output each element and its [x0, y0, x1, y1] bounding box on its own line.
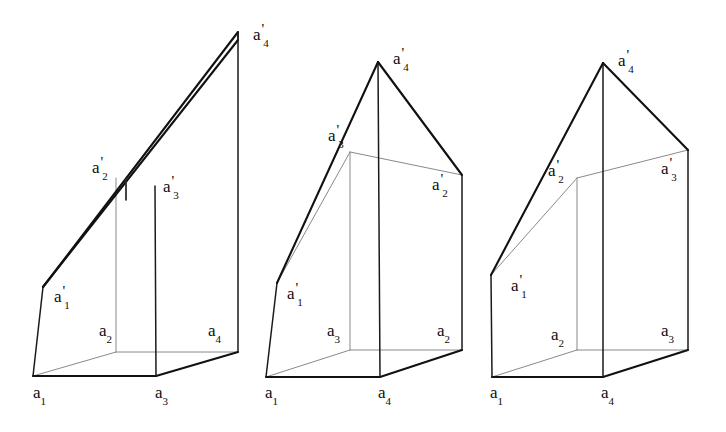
label-subscript: 2 [559, 337, 565, 349]
label-subscript: 2 [102, 170, 108, 182]
fig2-hidden-floor-diagonal [266, 350, 350, 377]
fig1-label-a3: a3 [155, 384, 168, 404]
label-prime: ' [262, 21, 265, 37]
fig3-right-bottom-edge [603, 350, 688, 377]
label-base: a [327, 321, 335, 340]
label-subscript: 4 [263, 37, 269, 49]
fig1-lower-slant-edge [43, 40, 238, 287]
label-prime: ' [441, 171, 444, 187]
fig1-label-a4: a4 [208, 322, 221, 342]
diagram-panel: a1 a3 a2 a4 a'1 a'2 a'3 a'4 a1 a4 a3 a2 … [0, 0, 726, 432]
fig2-label-a2: a2 [437, 322, 450, 342]
fig2-apex-left-edge [277, 62, 378, 283]
label-subscript: 2 [558, 173, 564, 185]
fig2-label-a2-prime: a'2 [432, 176, 448, 196]
fig2-hidden-top-back-right [350, 152, 462, 175]
label-prime: ' [63, 283, 66, 299]
fig2-left-vertical-edge [266, 283, 277, 377]
label-subscript: 3 [163, 395, 169, 407]
figure-2-geometry [266, 62, 462, 377]
fig2-label-a1-prime: a'1 [287, 285, 303, 305]
label-subscript: 3 [173, 189, 179, 201]
label-base: a [33, 383, 41, 402]
fig1-label-a4-prime: a'4 [253, 26, 269, 46]
label-prime: ' [337, 122, 340, 138]
fig3-apex-right-edge [603, 63, 688, 150]
fig2-label-a1: a1 [265, 384, 278, 404]
fig3-label-a3: a3 [661, 322, 674, 342]
fig1-right-bottom-edge [156, 352, 238, 376]
fig1-label-a1: a1 [33, 384, 46, 404]
fig1-label-a3-prime: a'3 [163, 178, 179, 198]
label-base: a [54, 287, 62, 306]
fig2-label-a3-prime: a'3 [328, 127, 344, 147]
label-subscript: 2 [107, 333, 113, 345]
label-base: a [393, 49, 401, 68]
label-base: a [287, 284, 295, 303]
label-base: a [511, 276, 519, 295]
fig3-label-a2-prime: a'2 [548, 162, 564, 182]
fig3-label-a4-prime: a'4 [618, 52, 634, 72]
label-subscript: 2 [442, 187, 448, 199]
fig2-mid-vertical-edge [378, 62, 380, 377]
label-subscript: 1 [273, 395, 279, 407]
label-prime: ' [101, 154, 104, 170]
label-subscript: 4 [216, 333, 222, 345]
label-base: a [253, 25, 261, 44]
fig1-label-a2: a2 [99, 322, 112, 342]
label-subscript: 1 [64, 299, 70, 311]
label-subscript: 4 [609, 395, 615, 407]
label-base: a [208, 321, 216, 340]
label-base: a [328, 126, 336, 145]
fig3-apex-left-edge [491, 63, 603, 275]
label-prime: ' [557, 157, 560, 173]
fig2-label-a4-prime: a'4 [393, 50, 409, 70]
fig1-left-vertical-edge [33, 287, 43, 376]
label-prime: ' [520, 272, 523, 288]
fig3-label-a4: a4 [601, 384, 614, 404]
fig2-label-a4: a4 [378, 384, 391, 404]
figure-3-geometry [491, 63, 688, 377]
label-base: a [265, 383, 273, 402]
label-prime: ' [670, 155, 673, 171]
label-subscript: 3 [671, 171, 677, 183]
label-subscript: 2 [445, 333, 451, 345]
label-base: a [99, 321, 107, 340]
label-base: a [432, 175, 440, 194]
label-subscript: 1 [521, 288, 527, 300]
label-base: a [601, 383, 609, 402]
label-subscript: 1 [498, 395, 504, 407]
fig1-label-a2-prime: a'2 [92, 159, 108, 179]
label-base: a [548, 161, 556, 180]
label-subscript: 1 [41, 395, 47, 407]
label-base: a [618, 51, 626, 70]
fig3-left-vertical-edge [491, 275, 492, 377]
label-prime: ' [627, 47, 630, 63]
label-subscript: 3 [335, 333, 341, 345]
label-base: a [92, 158, 100, 177]
fig1-label-a1-prime: a'1 [54, 288, 70, 308]
fig1-hidden-floor-diagonal [33, 352, 116, 376]
label-subscript: 1 [297, 296, 303, 308]
label-base: a [661, 321, 669, 340]
label-subscript: 4 [403, 61, 409, 73]
label-base: a [437, 321, 445, 340]
fig2-label-a3: a3 [327, 322, 340, 342]
label-base: a [163, 177, 171, 196]
fig3-label-a3-prime: a'3 [661, 160, 677, 180]
label-base: a [661, 159, 669, 178]
fig2-hidden-top-back-left [277, 152, 350, 283]
label-prime: ' [172, 173, 175, 189]
fig2-apex-right-edge [378, 62, 462, 175]
fig3-hidden-floor-diagonal [492, 350, 577, 377]
label-prime: ' [402, 45, 405, 61]
label-prime: ' [296, 280, 299, 296]
fig1-mid-vertical-edge [155, 186, 156, 376]
label-base: a [551, 325, 559, 344]
label-subscript: 4 [628, 63, 634, 75]
label-subscript: 3 [669, 333, 675, 345]
fig2-right-bottom-edge [380, 350, 462, 377]
fig3-label-a2: a2 [551, 326, 564, 346]
label-base: a [378, 383, 386, 402]
fig3-label-a1-prime: a'1 [511, 277, 527, 297]
